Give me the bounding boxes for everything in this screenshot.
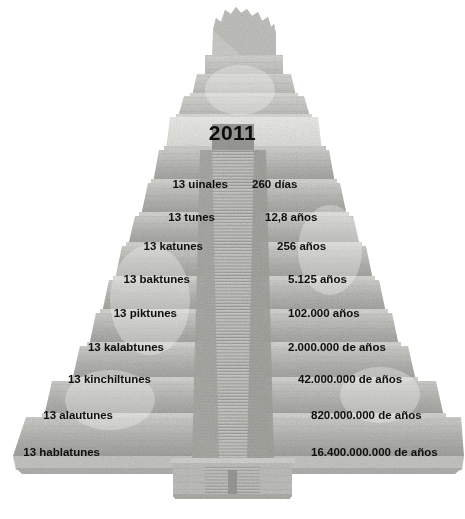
cycle-unit-label: 13 alautunes xyxy=(43,407,113,423)
cycle-duration-label: 260 días xyxy=(252,176,297,192)
cycle-duration-label: 2.000.000 de años xyxy=(288,339,386,355)
cycle-duration-label: 256 años xyxy=(277,238,326,254)
calendar-row: 13 uinales260 días xyxy=(0,176,465,192)
calendar-row: 13 tunes12,8 años xyxy=(0,209,465,225)
cycle-unit-label: 13 uinales xyxy=(172,176,228,192)
cycle-unit-label: 13 tunes xyxy=(168,209,215,225)
calendar-row: 13 katunes256 años xyxy=(0,238,465,254)
calendar-row: 13 piktunes102.000 años xyxy=(0,305,465,321)
cycle-unit-label: 13 piktunes xyxy=(114,305,177,321)
cycle-unit-label: 13 baktunes xyxy=(124,271,190,287)
calendar-row: 13 kalabtunes2.000.000 de años xyxy=(0,339,465,355)
year-label: 2011 xyxy=(0,116,465,149)
cycle-unit-label: 13 katunes xyxy=(144,238,203,254)
cycle-unit-label: 13 kinchiltunes xyxy=(68,371,151,387)
tikal-pyramid-illustration xyxy=(0,0,465,519)
cycle-duration-label: 12,8 años xyxy=(265,209,317,225)
calendar-row: 13 baktunes5.125 años xyxy=(0,271,465,287)
cycle-duration-label: 5.125 años xyxy=(288,271,347,287)
calendar-row: 13 kinchiltunes42.000.000 de años xyxy=(0,371,465,387)
calendar-row: 13 alautunes820.000.000 de años xyxy=(0,407,465,423)
cycle-unit-label: 13 kalabtunes xyxy=(88,339,164,355)
cycle-duration-label: 820.000.000 de años xyxy=(311,407,422,423)
cycle-duration-label: 42.000.000 de años xyxy=(298,371,402,387)
cycle-duration-label: 16.400.000.000 de años xyxy=(311,444,438,460)
cycle-unit-label: 13 hablatunes xyxy=(23,444,100,460)
cycle-duration-label: 102.000 años xyxy=(288,305,360,321)
maya-calendar-pyramid-figure: 2011 13 uinales260 días13 tunes12,8 años… xyxy=(0,0,465,519)
calendar-row: 13 hablatunes16.400.000.000 de años xyxy=(0,444,465,460)
